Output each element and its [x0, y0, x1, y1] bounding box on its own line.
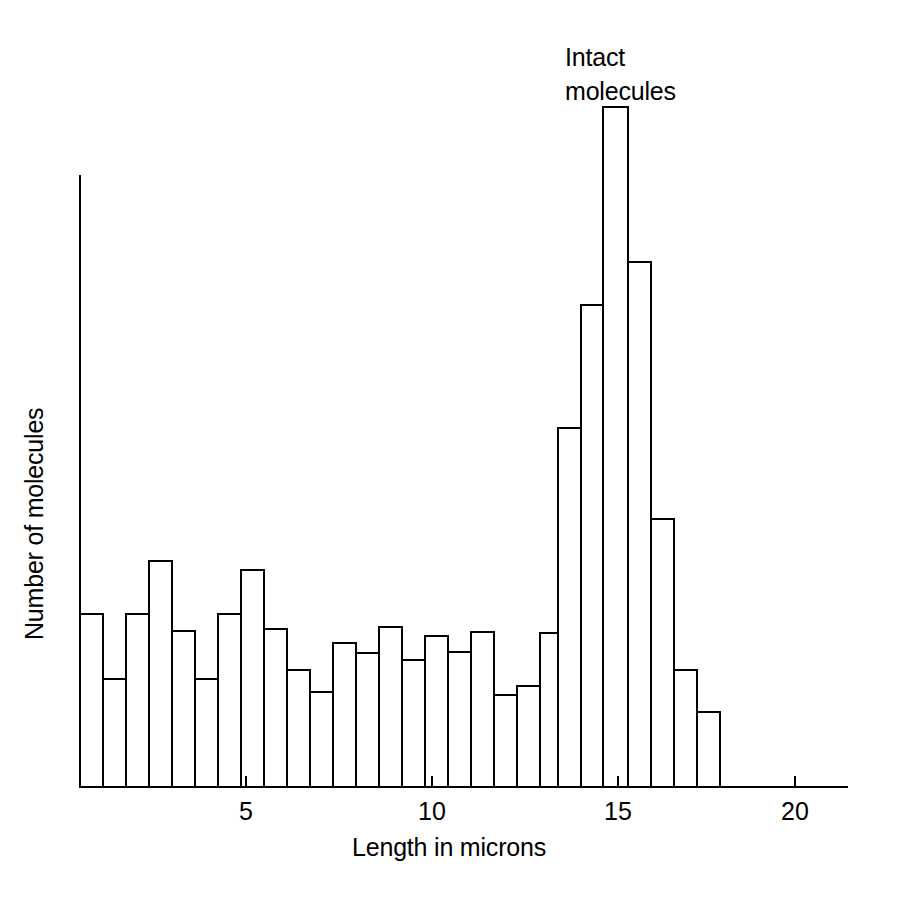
histogram-bar	[674, 670, 697, 787]
histogram-bar	[310, 692, 333, 787]
histogram-bar	[80, 614, 103, 787]
histogram-bar	[697, 712, 720, 787]
intact-molecules-annotation: Intact molecules	[565, 40, 676, 108]
histogram-bar	[172, 631, 195, 787]
histogram-bar	[603, 107, 628, 787]
x-tick-label: 5	[239, 797, 253, 825]
histogram-bar	[195, 679, 218, 787]
x-tick-label: 20	[781, 797, 809, 825]
histogram-bar	[103, 679, 126, 787]
histogram-bar	[356, 653, 379, 787]
histogram-bar	[241, 570, 264, 787]
y-axis-title: Number of molecules	[20, 340, 49, 640]
histogram-bar	[379, 627, 402, 787]
histogram-bar	[264, 629, 287, 787]
histogram-bar	[471, 632, 494, 787]
histogram-bar	[126, 614, 149, 787]
x-axis-title: Length in microns	[0, 833, 898, 862]
x-tick-labels: 5101520	[239, 797, 809, 825]
histogram-bar	[540, 633, 558, 787]
histogram-bar	[494, 695, 517, 787]
histogram-bar	[558, 428, 581, 787]
histogram-bar	[581, 305, 603, 787]
histogram-bar	[218, 614, 241, 787]
histogram-plot: 5101520	[0, 0, 898, 899]
histogram-figure: 5101520 Intact molecules Length in micro…	[0, 0, 898, 899]
histogram-bar	[425, 636, 448, 787]
histogram-bar	[149, 561, 172, 787]
x-tick-label: 15	[604, 797, 632, 825]
histogram-bar	[517, 686, 540, 787]
x-tick-label: 10	[418, 797, 446, 825]
histogram-bar	[651, 519, 674, 787]
histogram-bar	[448, 652, 471, 787]
histogram-bar	[287, 670, 310, 787]
histogram-bar	[402, 660, 425, 787]
histogram-bar	[628, 262, 651, 787]
histogram-bars	[80, 107, 720, 787]
histogram-bar	[333, 643, 356, 787]
